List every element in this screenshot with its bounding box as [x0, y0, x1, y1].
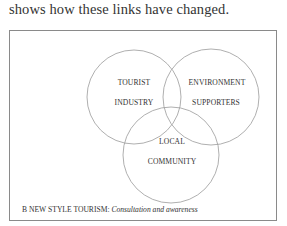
figure-caption: B NEW STYLE TOURISM: Consultation and aw… [22, 205, 198, 214]
label-local: LOCAL [159, 137, 185, 146]
caption-italic: Consultation and awareness [111, 205, 197, 214]
circle-tourist-industry [87, 50, 181, 144]
label-community: COMMUNITY [148, 157, 197, 166]
label-supporters: SUPPORTERS [192, 98, 240, 107]
label-environment: ENVIRONMENT [189, 78, 246, 87]
venn-diagram [0, 0, 287, 226]
label-tourist: TOURIST [118, 78, 151, 87]
circle-environment-supporters [163, 49, 259, 145]
caption-prefix: B NEW STYLE TOURISM: [22, 205, 110, 214]
label-industry: INDUSTRY [115, 98, 154, 107]
circle-local-community [123, 107, 219, 203]
